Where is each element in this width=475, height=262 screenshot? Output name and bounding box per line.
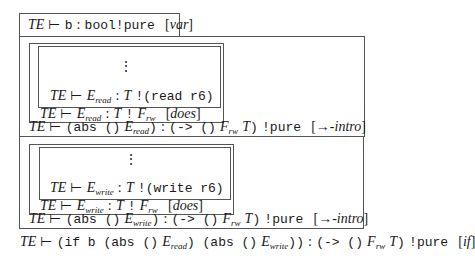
expr-mid: ) (abs ()	[187, 235, 257, 250]
type-pre: (-> ()	[171, 212, 218, 227]
type: T	[124, 88, 132, 103]
env: TE	[50, 180, 66, 195]
bang: !	[262, 120, 270, 135]
colon: :	[163, 211, 167, 226]
colon: :	[308, 234, 312, 249]
type-t: T	[389, 234, 397, 249]
bang: !	[409, 235, 417, 250]
var-judgment: TE ⊢ b : bool!pure [var]	[28, 17, 193, 34]
colon: :	[77, 17, 81, 32]
rule-name: →-intro	[318, 211, 363, 226]
colon: :	[118, 180, 122, 195]
rule-name: var	[170, 17, 189, 32]
effect: (write r6)	[146, 181, 224, 196]
expr-pre: (abs ()	[66, 120, 121, 135]
type-f-sub: rw	[229, 126, 239, 136]
bang: !	[116, 18, 124, 33]
expr-post: )	[149, 120, 157, 135]
expr-sub: read	[133, 126, 149, 136]
effect: pure	[272, 212, 303, 227]
write-premise: TE ⊢ Ewrite : T !(write r6)	[50, 180, 224, 200]
if-conclusion: TE ⊢ (if b (abs () Eread) (abs () Ewrite…	[20, 234, 475, 254]
effect: (read r6)	[143, 89, 213, 104]
turnstile: ⊢	[40, 234, 52, 249]
type-post: )	[397, 235, 405, 250]
bang: !	[138, 181, 146, 196]
vdots: ⋮	[124, 153, 134, 167]
expr-post: )	[151, 212, 159, 227]
expr-sub: write	[133, 218, 152, 228]
expr: E	[124, 119, 133, 134]
expr: b	[65, 18, 73, 33]
expr-close: ))	[288, 235, 304, 250]
expr-pre: (abs ()	[66, 212, 121, 227]
env: TE	[28, 17, 44, 32]
rule-name: →-intro	[316, 119, 361, 134]
rule-name: if	[463, 234, 471, 249]
expr-sub: write	[95, 187, 114, 197]
expr-if: (if b (abs ()	[57, 235, 158, 250]
write-intro: TE ⊢ (abs () Ewrite) : (-> () Frw T) !pu…	[29, 211, 368, 231]
type-f-sub: rw	[231, 218, 241, 228]
read-premise: TE ⊢ Eread : T !(read r6)	[50, 88, 214, 108]
expr-read: E	[162, 234, 171, 249]
env: TE	[29, 211, 45, 226]
turnstile: ⊢	[49, 119, 61, 134]
type-post: )	[250, 120, 258, 135]
type-f: F	[222, 211, 231, 226]
vdots: ⋮	[119, 60, 129, 74]
type-f: F	[220, 119, 229, 134]
type: T	[126, 180, 134, 195]
expr: E	[124, 211, 133, 226]
expr-read-sub: read	[171, 241, 187, 251]
colon: :	[116, 88, 120, 103]
expr-sub: read	[95, 95, 111, 105]
turnstile: ⊢	[70, 180, 82, 195]
type-post: )	[252, 212, 260, 227]
type-pre: (-> ()	[316, 235, 363, 250]
expr-write-sub: write	[270, 241, 289, 251]
env: TE	[20, 234, 36, 249]
type-f-sub: rw	[376, 241, 386, 251]
type-pre: (-> ()	[169, 120, 216, 135]
colon: :	[161, 119, 165, 134]
expr-write: E	[261, 234, 270, 249]
type-f: F	[367, 234, 376, 249]
bang: !	[264, 212, 272, 227]
effect: pure	[124, 18, 155, 33]
effect: pure	[270, 120, 301, 135]
turnstile: ⊢	[48, 17, 60, 32]
expr: E	[87, 88, 96, 103]
turnstile: ⊢	[49, 211, 61, 226]
turnstile: ⊢	[70, 88, 82, 103]
type: bool	[85, 18, 116, 33]
type-t: T	[242, 119, 250, 134]
env: TE	[29, 119, 45, 134]
expr: E	[87, 180, 96, 195]
effect: pure	[417, 235, 448, 250]
env: TE	[50, 88, 66, 103]
